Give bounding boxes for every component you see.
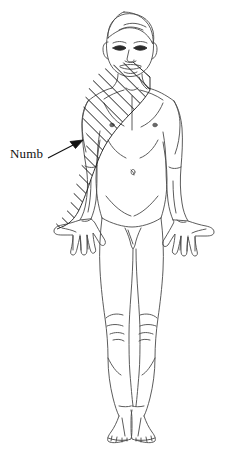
feet-outline: [108, 410, 156, 443]
right-hand-outline: [163, 220, 214, 256]
body-figure-diagram: [0, 0, 249, 451]
numb-region-hatching: [40, 55, 170, 240]
numb-label: Numb: [10, 146, 43, 162]
numb-annotation-arrow: [48, 140, 83, 158]
illustration-canvas: Numb: [0, 0, 249, 451]
right-arm-outline: [163, 101, 188, 221]
legs-outline: [100, 218, 164, 416]
